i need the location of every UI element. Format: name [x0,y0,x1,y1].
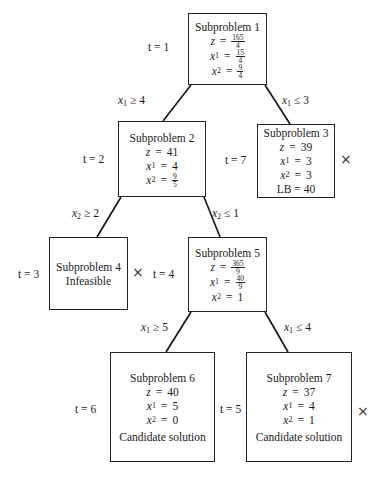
t-label-6: t = 6 [75,403,96,415]
node-status: Candidate solution [256,430,343,444]
row-x2: x2=1 [212,290,243,304]
row-z: z=3659 [210,260,244,275]
row-x1: x1=5 [147,399,178,413]
row-x1: x1=4 [146,159,177,173]
row-x1: x1=3 [280,154,311,168]
edge-label-5-6: x1 ≥ 5 [141,321,168,335]
node-subproblem-7: Subproblem 7 z=37 x1=4 x2=1 Candidate so… [246,352,352,462]
edge-1-2 [163,85,191,121]
node-status: Infeasible [66,274,111,288]
node-title: Subproblem 1 [195,20,260,34]
branch-and-bound-tree: x1 ≥ 4 x1 ≤ 3 x2 ≥ 2 x2 ≤ 1 x1 ≥ 5 x1 ≤ … [0,0,381,477]
node-title: Subproblem 5 [195,246,260,260]
node-subproblem-6: Subproblem 6 z=40 x1=5 x2=0 Candidate so… [110,352,215,462]
edge-label-1-2: x1 ≥ 4 [118,94,145,108]
edge-label-5-7: x1 ≤ 4 [284,321,311,335]
node-subproblem-4: Subproblem 4 Infeasible [49,237,128,310]
t-label-7: t = 5 [220,403,241,415]
node-title: Subproblem 4 [56,260,121,274]
node-title: Subproblem 6 [130,371,195,385]
row-x2: x2=3 [280,168,311,182]
node-title: Subproblem 7 [267,371,332,385]
row-x2: x2=0 [147,413,178,427]
node-title: Subproblem 2 [130,131,195,145]
fathomed-x-icon: × [357,403,369,419]
edge-5-6 [166,312,191,352]
row-z: z=40 [146,385,178,399]
fathomed-x-icon: × [132,264,144,280]
t-label-4: t = 3 [18,268,39,280]
row-z: z=39 [280,140,312,154]
row-x1: x1=154 [210,49,245,64]
node-subproblem-5: Subproblem 5 z=3659 x1=409 x2=1 [188,237,267,312]
t-label-2: t = 2 [83,153,104,165]
node-subproblem-1: Subproblem 1 z=1654 x1=154 x2=94 [188,13,267,85]
row-x1: x1=409 [210,275,245,290]
edge-label-2-5: x2 ≤ 1 [212,207,239,221]
row-x2: x2=95 [146,173,177,188]
row-x1: x1=4 [283,399,314,413]
node-status: Candidate solution [119,430,206,444]
row-x2: x2=94 [212,64,243,79]
t-label-1: t = 1 [148,41,169,53]
row-z: z=37 [283,385,315,399]
edge-label-2-4: x2 ≥ 2 [72,207,99,221]
row-z: z=41 [146,145,178,159]
edge-label-1-3: x1 ≤ 3 [282,94,309,108]
fathomed-x-icon: × [340,151,352,167]
node-subproblem-3: Subproblem 3 z=39 x1=3 x2=3 LB = 40 [257,124,335,198]
edge-2-4 [97,197,121,237]
node-title: Subproblem 3 [264,126,329,140]
t-label-3: t = 7 [225,154,246,166]
row-x2: x2=1 [283,413,314,427]
row-z: z=1654 [210,34,244,49]
row-lower-bound: LB = 40 [277,182,315,196]
node-subproblem-2: Subproblem 2 z=41 x1=4 x2=95 [118,121,206,197]
t-label-5: t = 4 [153,268,174,280]
